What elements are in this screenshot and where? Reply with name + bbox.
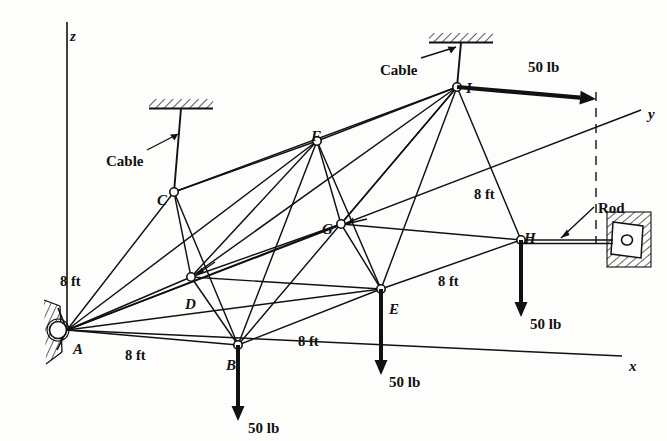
node-label-g: G [322,221,333,238]
dimension-label-a-c: 8 ft [60,273,81,290]
annotation-cable-I: Cable [380,62,418,79]
truss-member-EI [381,87,457,289]
dimension-label-b-e: 8 ft [298,333,319,350]
axis-label-z: z [70,28,76,45]
node-label-e: E [389,301,399,318]
truss-member-CD [174,192,191,277]
load-label-b: 50 lb [248,420,279,437]
truss-figure: ABCDEFGHIzyx8 ft8 ft8 ft8 ft8 ft50 lb50 … [0,0,667,441]
truss-member-DI [191,87,457,277]
load-label-i: 50 lb [528,59,559,76]
truss-member-FI [317,87,457,141]
annotation-rod-H: Rod [598,200,625,217]
load-arrow-i [457,87,596,105]
truss-member-DF [191,141,317,277]
cable-support-c [149,99,213,192]
node-label-h: H [524,230,536,247]
node-label-i: I [466,80,472,97]
joint-d [187,273,195,281]
axis-x [67,330,622,356]
joint-g [337,220,345,228]
truss-members [67,87,521,345]
load-arrow-h [515,240,528,317]
truss-member-DE [191,277,381,289]
truss-diagram-svg [0,0,667,441]
node-label-f: F [311,128,321,145]
dimension-label-a-b: 8 ft [125,347,146,364]
truss-member-GH [341,224,521,240]
axis-label-y: y [648,106,655,123]
rod-support-h [521,212,651,267]
pin-support-a [44,300,69,364]
truss-member-EG [341,224,381,289]
node-label-b: B [226,357,236,374]
dimension-label-i-h: 8 ft [474,186,495,203]
truss-member-FG [317,141,341,224]
cable-support-i [429,33,493,87]
dimension-label-e-h: 8 ft [438,273,459,290]
node-label-a: A [73,341,83,358]
axis-label-x: x [629,358,637,375]
load-arrow-e [375,289,388,375]
node-label-c: C [157,192,167,209]
load-label-h: 50 lb [530,316,561,333]
node-label-d: D [185,296,196,313]
joint-c [170,188,178,196]
annotation-cable-C: Cable [106,153,144,170]
load-label-e: 50 lb [389,374,420,391]
truss-member-HI [457,87,521,240]
